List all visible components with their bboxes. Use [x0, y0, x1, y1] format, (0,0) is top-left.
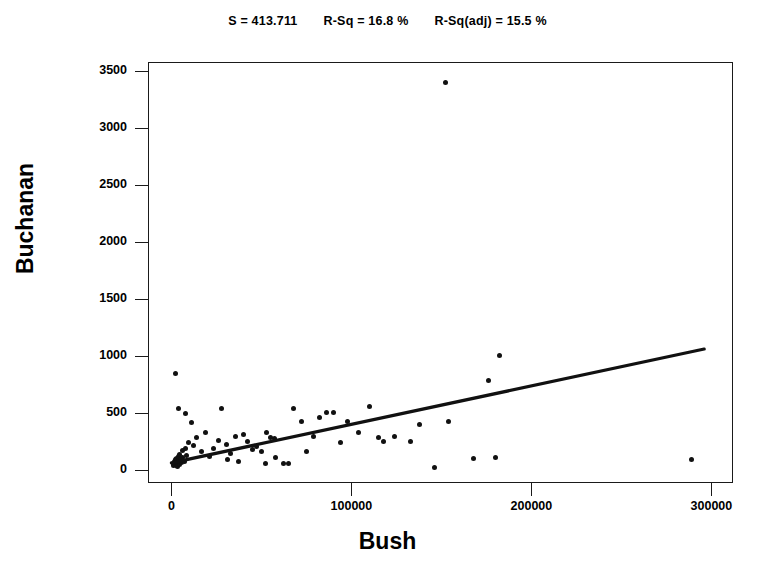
data-point	[417, 422, 422, 427]
y-tick-mark	[135, 413, 148, 414]
data-point	[254, 444, 259, 449]
y-tick-label-text: 2000	[75, 235, 127, 248]
data-point	[408, 439, 413, 444]
y-tick-mark	[135, 71, 148, 72]
y-tick-mark	[135, 242, 148, 243]
x-tick-mark	[171, 483, 172, 496]
data-point	[176, 406, 181, 411]
y-tick-label-text: 0	[75, 463, 127, 476]
data-point	[189, 420, 194, 425]
data-point	[304, 449, 309, 454]
y-tick-mark	[135, 128, 148, 129]
data-point	[443, 80, 448, 85]
data-point	[228, 451, 233, 456]
y-tick-mark	[135, 185, 148, 186]
data-point	[186, 440, 191, 445]
x-tick-mark	[711, 483, 712, 496]
data-point	[291, 406, 296, 411]
y-tick-mark	[135, 356, 148, 357]
data-point	[345, 419, 350, 424]
data-point	[311, 434, 316, 439]
y-tick-label-text: 1000	[75, 349, 127, 362]
data-point	[183, 446, 188, 451]
data-point	[324, 410, 329, 415]
y-axis-title: Buchanan	[12, 139, 39, 299]
data-point	[446, 419, 451, 424]
data-point	[497, 353, 502, 358]
data-point	[376, 435, 381, 440]
y-tick-label-text: 3500	[75, 64, 127, 77]
data-point	[471, 456, 476, 461]
x-tick-label: 300000	[691, 500, 733, 513]
data-point	[203, 430, 208, 435]
data-point	[182, 459, 187, 464]
data-point	[173, 371, 178, 376]
data-point	[191, 443, 196, 448]
data-point	[367, 404, 372, 409]
data-point	[207, 454, 212, 459]
y-tick-mark	[135, 470, 148, 471]
data-point	[486, 378, 491, 383]
data-point	[272, 436, 277, 441]
data-point	[216, 438, 221, 443]
y-tick-label-text: 500	[75, 406, 127, 419]
y-tick-mark	[135, 299, 148, 300]
data-point	[299, 419, 304, 424]
data-point	[689, 457, 694, 462]
data-point	[286, 461, 291, 466]
data-point	[493, 455, 498, 460]
stat-r-squared: R-Sq = 16.8 %	[324, 14, 409, 28]
data-point	[184, 453, 189, 458]
y-tick-label-text: 2500	[75, 178, 127, 191]
data-point	[259, 449, 264, 454]
fit-statistics-header: S = 413.711R-Sq = 16.8 %R-Sq(adj) = 15.5…	[0, 14, 775, 28]
x-tick-label: 100000	[331, 500, 373, 513]
data-point	[194, 435, 199, 440]
data-point	[241, 432, 246, 437]
x-axis-title: Bush	[0, 528, 775, 555]
data-point	[225, 457, 230, 462]
x-tick-label: 200000	[511, 500, 553, 513]
data-point	[356, 430, 361, 435]
data-point	[224, 442, 229, 447]
data-point	[245, 439, 250, 444]
plot-data-area	[148, 62, 733, 483]
data-point	[331, 410, 336, 415]
data-point	[219, 406, 224, 411]
data-point	[338, 440, 343, 445]
data-point	[199, 449, 204, 454]
y-tick-label-text: 3000	[75, 121, 127, 134]
data-point	[263, 461, 268, 466]
data-point	[233, 434, 238, 439]
data-point	[432, 465, 437, 470]
stat-s: S = 413.711	[228, 14, 297, 28]
data-point	[381, 439, 386, 444]
data-point	[281, 461, 286, 466]
data-point	[273, 455, 278, 460]
stat-r-squared-adjusted: R-Sq(adj) = 15.5 %	[434, 14, 546, 28]
data-point	[211, 446, 216, 451]
x-tick-mark	[351, 483, 352, 496]
scatterplot-figure: S = 413.711R-Sq = 16.8 %R-Sq(adj) = 15.5…	[0, 0, 775, 577]
x-tick-label: 0	[168, 500, 175, 513]
data-point	[183, 411, 188, 416]
data-point	[236, 459, 241, 464]
data-point	[392, 434, 397, 439]
data-point	[317, 415, 322, 420]
y-tick-label-text: 1500	[75, 292, 127, 305]
x-tick-mark	[531, 483, 532, 496]
